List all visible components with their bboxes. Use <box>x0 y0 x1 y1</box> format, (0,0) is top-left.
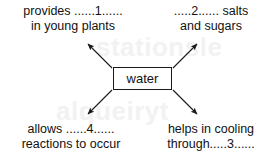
branch-label-bottom-right: helps in cooling through.....3...... <box>152 122 270 152</box>
branch-label-top-right-line-2: and sugars <box>152 19 270 34</box>
arrow-down-left <box>88 90 112 114</box>
branch-label-top-left-line-1: provides ......1...... <box>14 4 132 19</box>
branch-label-bottom-left-line-1: allows ......4...... <box>10 122 132 137</box>
branch-label-bottom-right-line-1: helps in cooling <box>152 122 270 137</box>
branch-label-top-left: provides ......1...... in young plants <box>14 4 132 34</box>
branch-label-top-right-line-1: .....2...... salts <box>152 4 270 19</box>
arrow-up-right <box>173 44 197 68</box>
branch-label-bottom-left: allows ......4...... reactions to occur <box>10 122 132 152</box>
concept-map-diagram: stationsle alqueiryt water provides ....… <box>0 0 277 159</box>
arrow-down-right <box>173 90 197 114</box>
arrow-up-left <box>88 44 112 68</box>
center-node-label: water <box>127 72 159 85</box>
branch-label-bottom-right-line-2: through.....3...... <box>152 137 270 152</box>
branch-label-bottom-left-line-2: reactions to occur <box>10 137 132 152</box>
center-node-water: water <box>113 67 172 90</box>
branch-label-top-left-line-2: in young plants <box>14 19 132 34</box>
branch-label-top-right: .....2...... salts and sugars <box>152 4 270 34</box>
